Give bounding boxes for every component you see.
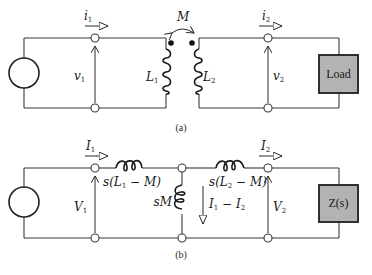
- series-inductor-1: [116, 161, 142, 171]
- terminal-b-1-top: [91, 164, 99, 172]
- series-inductor-2: [216, 161, 244, 171]
- polarity-dot-L2: [189, 40, 195, 46]
- terminal-b-2-bottom: [264, 234, 272, 242]
- inductor-coil-L2: [195, 49, 203, 94]
- mutual-coupling-arrow: [172, 29, 194, 33]
- series-impedance-label-1: s(L1 − M): [103, 175, 161, 190]
- circuit-diagram: i1 v1 L1 M L2 i2 v2: [0, 0, 372, 275]
- voltage-label-v1: v1: [74, 69, 85, 84]
- node-b-center-top: [178, 164, 186, 172]
- node-b-center-bottom: [178, 234, 186, 242]
- terminal-a-1-bottom: [91, 104, 99, 112]
- voltage-label-V1: V1: [74, 200, 87, 215]
- current-label-i1: i1: [84, 9, 92, 24]
- shunt-impedance-label: sM: [154, 195, 173, 209]
- load-label: Load: [326, 67, 351, 81]
- shunt-current-label: I1 − I2: [208, 197, 245, 212]
- caption-b: (b): [175, 249, 187, 261]
- voltage-label-V2: V2: [273, 200, 286, 215]
- current-label-i2: i2: [262, 9, 270, 24]
- polarity-dot-L1: [168, 40, 174, 46]
- series-impedance-label-2: s(L2 − M): [209, 175, 267, 190]
- inductor-label-L2: L2: [202, 70, 215, 85]
- panel-b: I1 V1 s(L1 − M) sM I1 − I2 s(L2 − M) I2 …: [9, 139, 358, 261]
- voltage-source-a: [9, 38, 39, 108]
- terminal-a-2-top: [264, 34, 272, 42]
- voltage-label-v2: v2: [273, 69, 284, 84]
- terminal-a-2-bottom: [264, 104, 272, 112]
- terminal-a-1-top: [91, 34, 99, 42]
- impedance-label: Z(s): [329, 196, 349, 210]
- terminal-b-1-bottom: [91, 234, 99, 242]
- wires-b: [24, 168, 339, 238]
- voltage-source-b: [9, 168, 39, 238]
- current-label-I1: I1: [85, 139, 95, 154]
- caption-a: (a): [175, 122, 186, 134]
- inductor-label-L1: L1: [145, 70, 158, 85]
- inductor-coil-L1: [163, 49, 171, 94]
- current-label-I2: I2: [260, 139, 270, 154]
- mutual-inductance-label: M: [176, 10, 190, 24]
- terminal-b-2-top: [264, 164, 272, 172]
- shunt-inductor-sM: [175, 185, 185, 209]
- secondary-wires-a: [199, 38, 339, 108]
- panel-a: i1 v1 L1 M L2 i2 v2: [9, 9, 358, 134]
